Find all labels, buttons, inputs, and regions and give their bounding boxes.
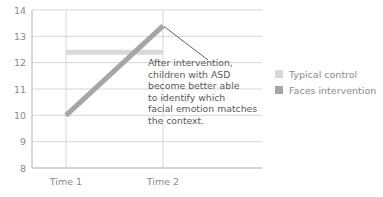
legend-item-faces-intervention[interactable]: Faces intervention <box>275 85 376 96</box>
legend-label-typical-control: Typical control <box>288 69 357 80</box>
x-category-labels: Time 1 Time 2 <box>49 176 179 187</box>
x-category-label-time-2: Time 2 <box>146 176 179 187</box>
y-tick-label-14: 14 <box>14 5 26 16</box>
legend-label-faces-intervention: Faces intervention <box>289 85 376 96</box>
legend-item-typical-control[interactable]: Typical control <box>275 69 357 80</box>
y-tick-label-10: 10 <box>14 110 26 121</box>
annotation-line-3: to identify which <box>148 92 225 103</box>
annotation-line-4: facial emotion matches <box>148 103 257 114</box>
annotation-line-1: children with ASD <box>148 69 230 80</box>
annotation-line-5: the context. <box>148 115 204 126</box>
legend-swatch-typical-control <box>275 70 283 78</box>
y-tick-label-13: 13 <box>14 31 26 42</box>
y-tick-label-8: 8 <box>20 163 26 174</box>
y-tick-labels: 14 13 12 11 10 9 8 <box>14 5 26 174</box>
line-chart: 14 13 12 11 10 9 8 Time 1 Time 2 After i… <box>0 0 383 197</box>
annotation-line-2: become better able <box>148 80 240 91</box>
x-category-label-time-1: Time 1 <box>49 176 82 187</box>
chart-legend: Typical control Faces intervention <box>275 69 376 96</box>
y-tick-label-9: 9 <box>20 136 26 147</box>
legend-swatch-faces-intervention <box>275 86 283 94</box>
y-tick-label-11: 11 <box>14 84 26 95</box>
y-tick-label-12: 12 <box>14 57 26 68</box>
annotation-line-0: After intervention, <box>148 57 233 68</box>
chart-container: 14 13 12 11 10 9 8 Time 1 Time 2 After i… <box>0 0 383 197</box>
